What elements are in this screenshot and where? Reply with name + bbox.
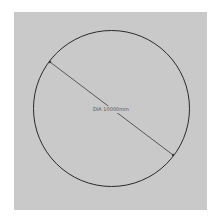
drawing-viewport[interactable]: DIA 10000mm [0, 0, 217, 224]
diameter-dimension-label[interactable]: DIA 10000mm [93, 106, 129, 112]
dimension-endpoint-marker [172, 154, 174, 156]
dimension-endpoint-marker [49, 61, 51, 63]
